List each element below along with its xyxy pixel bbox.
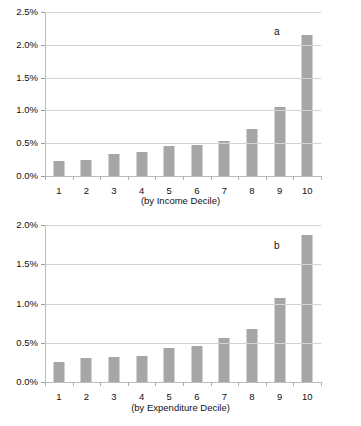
bar-slot [293, 12, 321, 176]
x-tick-label: 7 [222, 186, 227, 196]
x-tick-label: 3 [111, 186, 116, 196]
y-tick-label: 1.5% [0, 73, 38, 83]
x-tick-label: 9 [277, 392, 282, 402]
y-tick-mark [41, 343, 45, 344]
bar [219, 338, 230, 382]
x-tick-mark [183, 176, 184, 180]
y-tick-mark [41, 110, 45, 111]
x-tick-mark [45, 382, 46, 386]
panel-label-a: a [274, 27, 280, 37]
bar [136, 152, 147, 176]
y-tick-mark [41, 225, 45, 226]
y-tick-label: 2.0% [0, 40, 38, 50]
y-tick-label: 2.5% [0, 7, 38, 17]
bar-slot [128, 12, 156, 176]
y-tick-label: 1.0% [0, 106, 38, 116]
bar [191, 145, 202, 176]
x-tick-mark [73, 176, 74, 180]
x-tick-mark [238, 176, 239, 180]
x-tick-label: 1 [56, 186, 61, 196]
bar [136, 356, 147, 382]
gridline [45, 264, 321, 265]
bar [108, 357, 119, 382]
x-tick-mark [321, 176, 322, 180]
bar [81, 160, 92, 176]
x-tick-mark [238, 382, 239, 386]
x-tick-mark [155, 382, 156, 386]
y-tick-mark [41, 143, 45, 144]
bar [302, 35, 313, 176]
bar [108, 154, 119, 176]
x-tick-label: 10 [302, 186, 313, 196]
x-tick-label: 9 [277, 186, 282, 196]
x-tick-label: 2 [84, 186, 89, 196]
x-tick-label: 3 [111, 392, 116, 402]
x-tick-mark [155, 176, 156, 180]
y-tick-mark [41, 45, 45, 46]
x-tick-mark [266, 382, 267, 386]
y-tick-label: 1.5% [0, 260, 38, 270]
y-tick-mark [41, 12, 45, 13]
bar [191, 346, 202, 382]
y-tick-label: 0.5% [0, 338, 38, 348]
chart-panel-a: 0.0%0.5%1.0%1.5%2.0%2.5% 12345678910 (by… [0, 0, 361, 213]
y-tick-label: 0.5% [0, 138, 38, 148]
gridline [45, 143, 321, 144]
gridline [45, 45, 321, 46]
chart-panel-b: 0.0%0.5%1.0%1.5%2.0% 12345678910 (by Exp… [0, 213, 361, 426]
x-tick-mark [45, 176, 46, 180]
gridline [45, 343, 321, 344]
bar [53, 161, 64, 176]
bar [246, 329, 257, 382]
bar-slot [183, 12, 211, 176]
x-tick-mark [211, 382, 212, 386]
bar-slot [238, 12, 266, 176]
x-tick-label: 2 [84, 392, 89, 402]
bar [164, 348, 175, 382]
gridline [45, 225, 321, 226]
x-tick-label: 10 [302, 392, 313, 402]
bar [274, 298, 285, 382]
figure-two-panel-bar-charts: 0.0%0.5%1.0%1.5%2.0%2.5% 12345678910 (by… [0, 0, 361, 426]
x-tick-mark [128, 176, 129, 180]
x-tick-label: 6 [194, 392, 199, 402]
x-tick-label: 5 [167, 392, 172, 402]
panel-label-b: b [274, 241, 280, 251]
y-tick-label: 2.0% [0, 220, 38, 230]
bar [246, 129, 257, 176]
bar-slot [211, 12, 239, 176]
x-tick-mark [73, 382, 74, 386]
x-tick-mark [183, 382, 184, 386]
bar [53, 362, 64, 382]
bar [274, 107, 285, 176]
x-tick-label: 8 [249, 392, 254, 402]
y-tick-mark [41, 78, 45, 79]
y-tick-mark [41, 304, 45, 305]
x-tick-mark [293, 382, 294, 386]
x-tick-label: 4 [139, 392, 144, 402]
y-tick-label: 0.0% [0, 377, 38, 387]
x-tick-mark [266, 176, 267, 180]
x-tick-label: 1 [56, 392, 61, 402]
bar-slot [100, 12, 128, 176]
gridline [45, 304, 321, 305]
bar [164, 146, 175, 176]
bar-slot [73, 12, 101, 176]
bar [219, 141, 230, 176]
x-axis-title-b: (by Expenditure Decile) [0, 403, 361, 413]
bar-slot [155, 12, 183, 176]
bar [81, 358, 92, 382]
gridline [45, 12, 321, 13]
x-tick-mark [100, 176, 101, 180]
x-tick-mark [211, 176, 212, 180]
x-axis-title-a: (by Income Decile) [0, 196, 361, 206]
bar [302, 235, 313, 382]
gridline [45, 78, 321, 79]
x-tick-mark [128, 382, 129, 386]
y-tick-mark [41, 264, 45, 265]
x-tick-mark [293, 176, 294, 180]
x-tick-mark [321, 382, 322, 386]
gridline [45, 110, 321, 111]
y-tick-label: 0.0% [0, 171, 38, 181]
x-tick-label: 7 [222, 392, 227, 402]
